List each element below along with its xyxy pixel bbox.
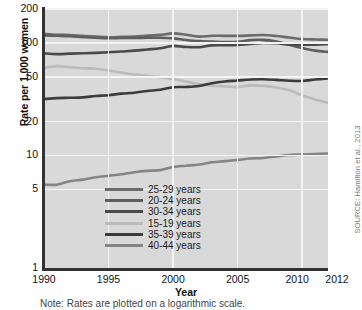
legend-label: 25-29 years (148, 184, 201, 195)
legend-swatch-icon (105, 244, 143, 247)
y-axis-line (42, 7, 45, 270)
gridline-x-2005 (237, 9, 239, 268)
y-tick-50: 50 (4, 71, 38, 82)
legend-swatch-icon (105, 210, 143, 213)
chart-note: Note: Rates are plotted on a logarithmic… (40, 298, 245, 309)
gridline-y-50 (44, 76, 328, 78)
legend-swatch-icon (105, 188, 143, 191)
legend-label: 15-19 years (148, 218, 201, 229)
y-tick-200: 200 (4, 3, 38, 14)
y-tick-1: 1 (4, 262, 38, 273)
legend-label: 30-34 years (148, 206, 201, 217)
legend-swatch-icon (105, 222, 143, 225)
x-tick-2000: 2000 (151, 273, 195, 285)
x-axis-line (42, 268, 328, 271)
gridline-y-20 (44, 121, 328, 123)
gridline-y-10 (44, 155, 328, 157)
legend: 25-29 years20-24 years30-34 years15-19 y… (105, 184, 230, 251)
y-tick-5: 5 (4, 183, 38, 194)
y-tick-20: 20 (4, 116, 38, 127)
legend-label: 35-39 years (148, 229, 201, 240)
gridline-y-100 (44, 42, 328, 44)
x-tick-2010: 2010 (275, 273, 319, 285)
x-tick-2005: 2005 (216, 273, 260, 285)
legend-item-30-34-years[interactable]: 30-34 years (105, 206, 230, 217)
source-credit: SOURCE: Hamilton et al., 2013 (353, 120, 362, 240)
gridline-y-200 (44, 8, 328, 10)
legend-item-35-39-years[interactable]: 35-39 years (105, 229, 230, 240)
gridline-x-2010 (301, 9, 303, 268)
legend-swatch-icon (105, 233, 143, 236)
legend-item-40-44-years[interactable]: 40-44 years (105, 240, 230, 251)
legend-label: 20-24 years (148, 195, 201, 206)
x-tick-2012: 2012 (315, 273, 359, 285)
series-line-30-34-years (44, 43, 328, 54)
y-tick-10: 10 (4, 149, 38, 160)
legend-label: 40-44 years (148, 240, 201, 251)
legend-item-15-19-years[interactable]: 15-19 years (105, 218, 230, 229)
legend-item-25-29-years[interactable]: 25-29 years (105, 184, 230, 195)
y-tick-100: 100 (4, 37, 38, 48)
series-line-40-44-years (44, 154, 328, 185)
legend-swatch-icon (105, 199, 143, 202)
x-axis-title: Year (44, 286, 328, 298)
x-tick-1990: 1990 (22, 273, 66, 285)
legend-item-20-24-years[interactable]: 20-24 years (105, 195, 230, 206)
x-tick-1995: 1995 (87, 273, 131, 285)
